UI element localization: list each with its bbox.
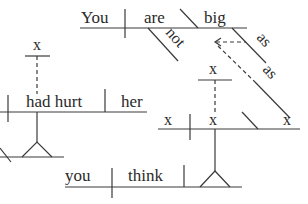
placeholder-x-right-3: x <box>283 111 291 128</box>
word-you-lower: you <box>65 166 91 185</box>
predicate-adjective-slash <box>180 9 198 28</box>
word-are: are <box>144 8 165 27</box>
right-clause: x x x <box>158 111 300 187</box>
placeholder-x-right-1: x <box>164 111 172 128</box>
sentence-diagram: You are big not as as x x x x <box>0 0 308 204</box>
left-subordinate-subject: x <box>25 36 50 94</box>
word-had-hurt: had hurt <box>26 92 82 111</box>
placeholder-x-top: x <box>209 60 217 77</box>
left-pedestal <box>22 142 52 157</box>
word-think: think <box>128 166 163 185</box>
word-as-2: as <box>260 61 282 82</box>
second-as-modifier: as <box>218 46 290 118</box>
subordinate-subject: x <box>198 60 232 114</box>
word-big: big <box>204 8 226 27</box>
right-slash <box>242 112 258 129</box>
placeholder-x-left: x <box>33 36 41 53</box>
word-as-1: as <box>254 29 276 50</box>
dashed-connector-diagonal <box>218 46 255 82</box>
right-pedestal <box>200 171 230 187</box>
left-clause: had hurt her <box>0 89 147 162</box>
left-lower-slash <box>0 148 11 162</box>
word-you: You <box>81 8 109 27</box>
placeholder-x-right-2: x <box>209 111 217 128</box>
main-clause: You are big not as <box>80 8 275 63</box>
word-her: her <box>121 92 143 111</box>
